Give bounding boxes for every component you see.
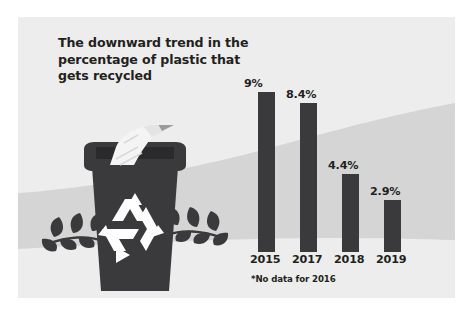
- chart-footnote: *No data for 2016: [251, 274, 336, 284]
- poster-canvas: The downward trend in the percentage of …: [18, 17, 455, 298]
- bar-rect: [300, 103, 317, 252]
- leaf-branches: [42, 213, 103, 251]
- page-title: The downward trend in the percentage of …: [58, 35, 273, 85]
- bar-rect: [258, 92, 275, 252]
- recycling-bin-illustration: [40, 125, 230, 295]
- bar-category-label: 2017: [292, 253, 332, 266]
- infographic-poster: The downward trend in the percentage of …: [0, 0, 471, 315]
- bar-category-label: 2019: [376, 253, 416, 266]
- bar-chart: 9% 2015 8.4% 2017 4.4% 2018 2.9%: [250, 92, 446, 292]
- chart-plot-area: 9% 2015 8.4% 2017 4.4% 2018 2.9%: [250, 92, 446, 252]
- bar-value-label: 4.4%: [328, 159, 380, 172]
- bar-rect: [342, 174, 359, 252]
- bar-value-label: 2.9%: [370, 185, 422, 198]
- bar-category-label: 2015: [250, 253, 290, 266]
- bar-column: 2.9% 2019: [376, 92, 416, 252]
- bar-value-label: 8.4%: [286, 88, 338, 101]
- bar-category-label: 2018: [334, 253, 374, 266]
- bar-column: 4.4% 2018: [334, 92, 374, 252]
- bar-rect: [384, 200, 401, 252]
- bar-column: 8.4% 2017: [292, 92, 332, 252]
- bar-column: 9% 2015: [250, 92, 290, 252]
- leaf-branches: [167, 207, 228, 245]
